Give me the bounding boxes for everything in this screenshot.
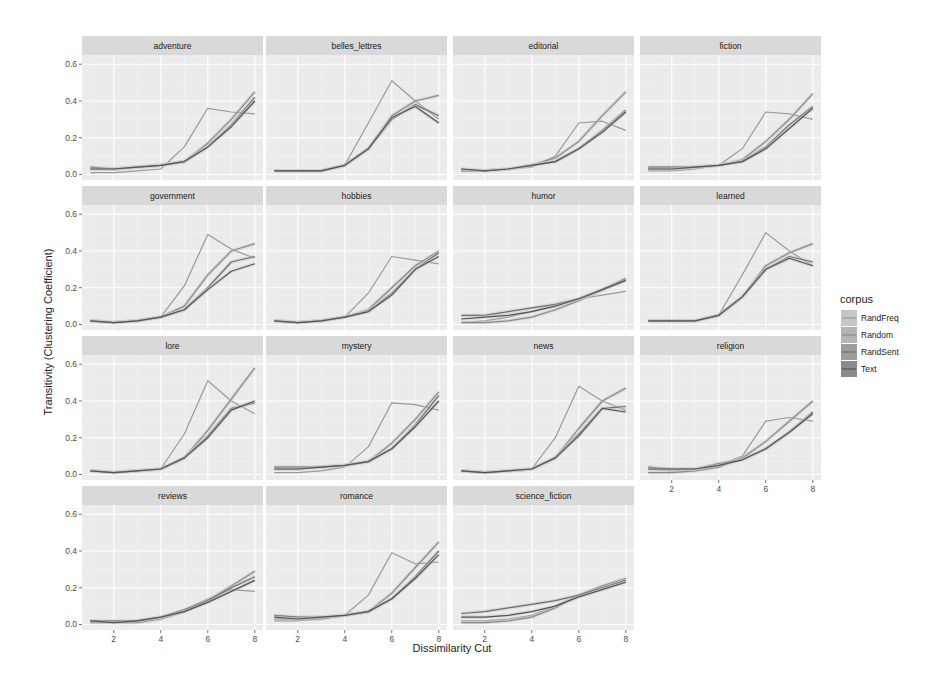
y-axes: 0.00.20.40.60.00.20.40.60.00.20.40.60.00… (65, 59, 82, 629)
x-axis-title: Dissimilarity Cut (413, 642, 492, 654)
y-tick-label: 0.2 (65, 283, 77, 293)
facet-label: belles_lettres (331, 41, 381, 51)
x-tick-label: 4 (716, 484, 721, 494)
y-axis-title: Transitivity (Clustering Coefficient) (42, 249, 54, 416)
y-tick-label: 0.6 (65, 509, 77, 519)
legend-label: RandFreq (861, 313, 899, 323)
facet-belles_lettres: belles_lettres (266, 36, 447, 180)
facet-lore: lore (82, 336, 263, 480)
y-tick-label: 0.2 (65, 133, 77, 143)
y-tick-label: 0.4 (65, 396, 77, 406)
facet-label: science_fiction (516, 491, 572, 501)
plot-background (266, 55, 447, 180)
y-tick-label: 0.4 (65, 546, 77, 556)
legend-item-random: Random (841, 327, 893, 343)
faceted-line-chart: adventurebelles_lettreseditorialfictiong… (0, 0, 940, 684)
x-tick-label: 6 (576, 634, 581, 644)
legend-item-randfreq: RandFreq (841, 310, 899, 326)
y-tick-label: 0.0 (65, 319, 77, 329)
y-tick-label: 0.4 (65, 96, 77, 106)
x-tick-label: 6 (389, 634, 394, 644)
plot-background (82, 505, 263, 630)
facet-label: government (150, 191, 196, 201)
x-tick-label: 4 (158, 634, 163, 644)
plot-background (453, 205, 634, 330)
legend-title: corpus (840, 293, 874, 305)
facet-hobbies: hobbies (266, 186, 447, 330)
x-tick-label: 2 (295, 634, 300, 644)
legend-item-text: Text (841, 361, 877, 377)
plot-background (640, 205, 821, 330)
facet-panels: adventurebelles_lettreseditorialfictiong… (82, 36, 821, 630)
y-tick-label: 0.0 (65, 169, 77, 179)
plot-background (82, 355, 263, 480)
legend: corpus RandFreqRandomRandSentText (840, 293, 899, 377)
x-tick-label: 4 (342, 634, 347, 644)
y-tick-label: 0.0 (65, 469, 77, 479)
facet-label: religion (717, 341, 745, 351)
legend-label: RandSent (861, 347, 899, 357)
x-tick-label: 4 (529, 634, 534, 644)
facet-news: news (453, 336, 634, 480)
facet-label: adventure (154, 41, 192, 51)
facet-humor: humor (453, 186, 634, 330)
x-tick-label: 8 (252, 634, 257, 644)
facet-label: romance (340, 491, 373, 501)
facet-adventure: adventure (82, 36, 263, 180)
y-tick-label: 0.2 (65, 583, 77, 593)
facet-government: government (82, 186, 263, 330)
y-tick-label: 0.6 (65, 59, 77, 69)
facet-fiction: fiction (640, 36, 821, 180)
plot-background (266, 505, 447, 630)
y-tick-label: 0.6 (65, 359, 77, 369)
facet-label: hobbies (342, 191, 372, 201)
legend-label: Random (861, 330, 893, 340)
y-tick-label: 0.0 (65, 619, 77, 629)
x-tick-label: 6 (763, 484, 768, 494)
plot-background (453, 355, 634, 480)
facet-religion: religion (640, 336, 821, 480)
facet-science_fiction: science_fiction (453, 486, 634, 630)
legend-item-randsent: RandSent (841, 344, 899, 360)
facet-label: lore (165, 341, 179, 351)
legend-label: Text (861, 364, 877, 374)
facet-mystery: mystery (266, 336, 447, 480)
facet-label: fiction (719, 41, 741, 51)
facet-label: humor (531, 191, 555, 201)
y-tick-label: 0.6 (65, 209, 77, 219)
y-tick-label: 0.2 (65, 433, 77, 443)
facet-label: reviews (158, 491, 187, 501)
facet-romance: romance (266, 486, 447, 630)
facet-label: news (534, 341, 554, 351)
facet-editorial: editorial (453, 36, 634, 180)
facet-label: mystery (342, 341, 373, 351)
x-tick-label: 8 (810, 484, 815, 494)
facet-learned: learned (640, 186, 821, 330)
x-tick-label: 2 (669, 484, 674, 494)
y-tick-label: 0.4 (65, 246, 77, 256)
facet-label: editorial (529, 41, 559, 51)
x-tick-label: 6 (205, 634, 210, 644)
facet-reviews: reviews (82, 486, 263, 630)
facet-label: learned (716, 191, 745, 201)
x-tick-label: 2 (111, 634, 116, 644)
x-tick-label: 8 (623, 634, 628, 644)
